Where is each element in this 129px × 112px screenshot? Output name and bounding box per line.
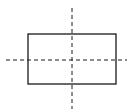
diagram-canvas: [0, 0, 129, 112]
